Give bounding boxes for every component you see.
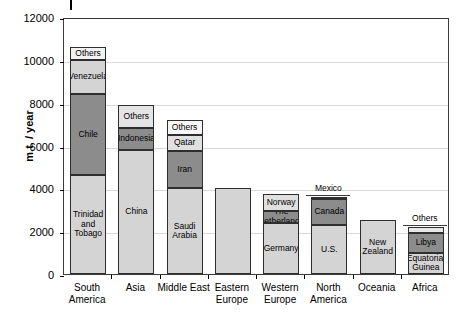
y-axis-tick-label: 12000 xyxy=(0,12,54,24)
x-axis-tick xyxy=(160,275,161,279)
bar-segment[interactable] xyxy=(408,227,444,233)
y-axis-tick xyxy=(60,62,64,63)
bar-segment-label: Saudi Arabia xyxy=(171,222,198,241)
bar-segment-label: New Zealand xyxy=(361,238,394,257)
bar-segment[interactable] xyxy=(215,188,251,274)
bar-segment-label: Norway xyxy=(266,198,297,208)
y-axis-tick-label: 4000 xyxy=(0,183,54,195)
bar-segment[interactable]: Trinidad and Tobago xyxy=(70,175,106,274)
bar-segment[interactable]: Iran xyxy=(167,151,203,188)
bar-segment-label: Indonesia xyxy=(118,134,154,144)
bar-segment[interactable]: Libya xyxy=(408,233,444,252)
bar-segment-label: Equatorial Guinea xyxy=(408,254,444,273)
y-axis-tick xyxy=(60,148,64,149)
bar-asia[interactable]: ChinaIndonesiaOthers xyxy=(118,105,154,274)
y-axis-tick xyxy=(60,233,64,234)
y-axis-tick xyxy=(60,190,64,191)
callout-leader-line xyxy=(403,225,447,226)
bar-segment[interactable]: The Netherlands xyxy=(263,211,299,223)
bar-segment[interactable]: U.S. xyxy=(311,225,347,274)
bar-segment[interactable]: Equatorial Guinea xyxy=(408,253,444,274)
bar-segment-label: The Netherlands xyxy=(263,211,299,223)
bar-oceania[interactable]: New Zealand xyxy=(360,220,396,274)
y-axis-tick-label: 0 xyxy=(0,269,54,281)
bar-segment[interactable]: Others xyxy=(167,120,203,135)
bar-segment-label: Trinidad and Tobago xyxy=(72,210,104,239)
bar-segment-label: Others xyxy=(123,112,151,122)
bar-segment-label: Libya xyxy=(415,238,437,248)
bar-africa[interactable]: Equatorial GuineaLibya xyxy=(408,227,444,274)
y-axis-tick xyxy=(60,105,64,106)
x-axis-label: Africa xyxy=(380,282,456,294)
bar-segment[interactable]: Canada xyxy=(311,199,347,225)
x-axis-tick xyxy=(111,275,112,279)
y-axis-tick-label: 8000 xyxy=(0,98,54,110)
bar-segment[interactable]: Qatar xyxy=(167,135,203,151)
bar-eastern-europe[interactable] xyxy=(215,188,251,274)
x-axis-tick xyxy=(304,275,305,279)
bar-segment-label: Others xyxy=(74,49,102,59)
x-axis-tick xyxy=(208,275,209,279)
y-axis-tick-label: 2000 xyxy=(0,226,54,238)
bar-segment[interactable]: Indonesia xyxy=(118,128,154,149)
bar-segment[interactable]: Chile xyxy=(70,94,106,175)
bar-segment[interactable]: China xyxy=(118,150,154,274)
bar-segment-label: Germany xyxy=(263,244,299,254)
bar-segment-label: Canada xyxy=(313,207,345,217)
y-axis-tick-label: 6000 xyxy=(0,141,54,153)
bar-segment[interactable]: Germany xyxy=(263,223,299,274)
bar-segment-callout-label: Mexico xyxy=(288,184,368,194)
gridline xyxy=(64,62,448,63)
bar-north-america[interactable]: U.S.Canada xyxy=(311,197,347,274)
bar-middle-east[interactable]: Saudi ArabiaIranQatarOthers xyxy=(167,120,203,274)
bar-western-europe[interactable]: GermanyThe NetherlandsNorway xyxy=(263,194,299,274)
bar-segment[interactable]: Others xyxy=(118,105,154,129)
bar-segment[interactable]: New Zealand xyxy=(360,220,396,274)
plot-area: Trinidad and TobagoChileVenezuelaOthersC… xyxy=(63,18,449,275)
bar-segment-callout-label: Others xyxy=(385,214,456,224)
stacked-bar-chart: m.t. / year Trinidad and TobagoChileVene… xyxy=(0,0,456,317)
callout-leader-line xyxy=(306,195,350,196)
bar-segment[interactable]: Venezuela xyxy=(70,60,106,94)
y-axis-tick xyxy=(60,19,64,20)
bar-segment[interactable] xyxy=(311,197,347,199)
bar-segment[interactable]: Others xyxy=(70,47,106,60)
top-stray-tick xyxy=(70,0,72,10)
bar-segment[interactable]: Norway xyxy=(263,194,299,211)
x-axis-tick xyxy=(256,275,257,279)
bar-segment[interactable]: Saudi Arabia xyxy=(167,188,203,274)
bar-segment-label: Venezuela xyxy=(70,72,106,82)
bar-segment-label: Chile xyxy=(77,130,98,140)
bar-segment-label: Qatar xyxy=(173,138,196,148)
bar-south-america[interactable]: Trinidad and TobagoChileVenezuelaOthers xyxy=(70,47,106,274)
x-axis-tick xyxy=(353,275,354,279)
y-axis-tick-label: 10000 xyxy=(0,55,54,67)
x-axis-tick xyxy=(401,275,402,279)
bar-segment-label: Iran xyxy=(176,165,193,175)
bar-segment-label: China xyxy=(124,207,148,217)
bar-segment-label: U.S. xyxy=(320,245,339,255)
y-axis-tick xyxy=(60,276,64,277)
bar-segment-label: Others xyxy=(171,123,199,133)
